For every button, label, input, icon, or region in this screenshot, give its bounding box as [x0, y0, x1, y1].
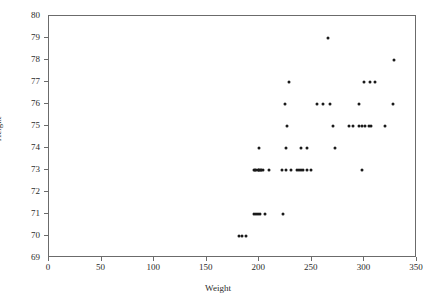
y-tick-mark: [44, 191, 48, 192]
y-tick-mark: [44, 37, 48, 38]
y-tick-mark: [44, 235, 48, 236]
y-tick-mark: [44, 81, 48, 82]
x-tick-label: 50: [96, 263, 105, 272]
y-tick-label: 78: [16, 55, 40, 64]
y-tick-label: 70: [16, 231, 40, 240]
x-tick-mark: [311, 257, 312, 261]
data-point: [244, 235, 247, 238]
x-tick-mark: [258, 257, 259, 261]
y-tick-label: 79: [16, 33, 40, 42]
x-tick-mark: [206, 257, 207, 261]
data-point: [368, 81, 371, 84]
x-tick-mark: [153, 257, 154, 261]
data-point: [316, 103, 319, 106]
data-point: [351, 125, 354, 128]
x-tick-label: 300: [357, 263, 371, 272]
x-tick-label: 350: [409, 263, 423, 272]
data-point: [267, 169, 270, 172]
x-tick-mark: [48, 257, 49, 261]
data-point: [384, 125, 387, 128]
data-point: [373, 81, 376, 84]
y-tick-label: 72: [16, 187, 40, 196]
y-axis-label: Height: [0, 117, 3, 142]
data-point: [347, 125, 350, 128]
data-point: [287, 81, 290, 84]
y-tick-mark: [44, 125, 48, 126]
data-point: [369, 125, 372, 128]
data-point: [285, 125, 288, 128]
data-point: [259, 213, 262, 216]
scatter-plot-figure: 050100150200250300350 697071727374757677…: [0, 0, 436, 306]
data-point: [331, 125, 334, 128]
data-point: [284, 147, 287, 150]
y-tick-mark: [44, 169, 48, 170]
data-point: [328, 103, 331, 106]
plot-area: [48, 15, 416, 257]
y-tick-label: 71: [16, 209, 40, 218]
y-tick-mark: [44, 147, 48, 148]
y-tick-label: 73: [16, 165, 40, 174]
y-tick-mark: [44, 103, 48, 104]
x-tick-label: 100: [146, 263, 160, 272]
y-tick-mark: [44, 213, 48, 214]
data-point: [282, 213, 285, 216]
data-point: [358, 103, 361, 106]
data-point: [391, 103, 394, 106]
data-point: [305, 147, 308, 150]
data-point: [284, 169, 287, 172]
data-point: [309, 169, 312, 172]
x-tick-label: 0: [46, 263, 51, 272]
data-point: [363, 81, 366, 84]
y-tick-label: 77: [16, 77, 40, 86]
data-point: [289, 169, 292, 172]
data-point: [322, 103, 325, 106]
data-point: [333, 147, 336, 150]
data-point: [260, 169, 263, 172]
y-tick-label: 76: [16, 99, 40, 108]
data-point: [258, 147, 261, 150]
x-tick-label: 250: [304, 263, 318, 272]
data-point: [392, 59, 395, 62]
x-tick-label: 200: [252, 263, 266, 272]
x-tick-mark: [416, 257, 417, 261]
data-points-layer: [49, 16, 415, 256]
data-point: [263, 213, 266, 216]
y-tick-label: 80: [16, 11, 40, 20]
y-tick-label: 74: [16, 143, 40, 152]
x-tick-mark: [363, 257, 364, 261]
data-point: [281, 169, 284, 172]
data-point: [326, 37, 329, 40]
y-tick-mark: [44, 59, 48, 60]
x-tick-mark: [101, 257, 102, 261]
y-tick-label: 75: [16, 121, 40, 130]
data-point: [305, 169, 308, 172]
data-point: [300, 147, 303, 150]
data-point: [283, 103, 286, 106]
y-tick-label: 69: [16, 253, 40, 262]
data-point: [361, 169, 364, 172]
x-axis-label: Weight: [0, 283, 436, 293]
x-tick-label: 150: [199, 263, 213, 272]
